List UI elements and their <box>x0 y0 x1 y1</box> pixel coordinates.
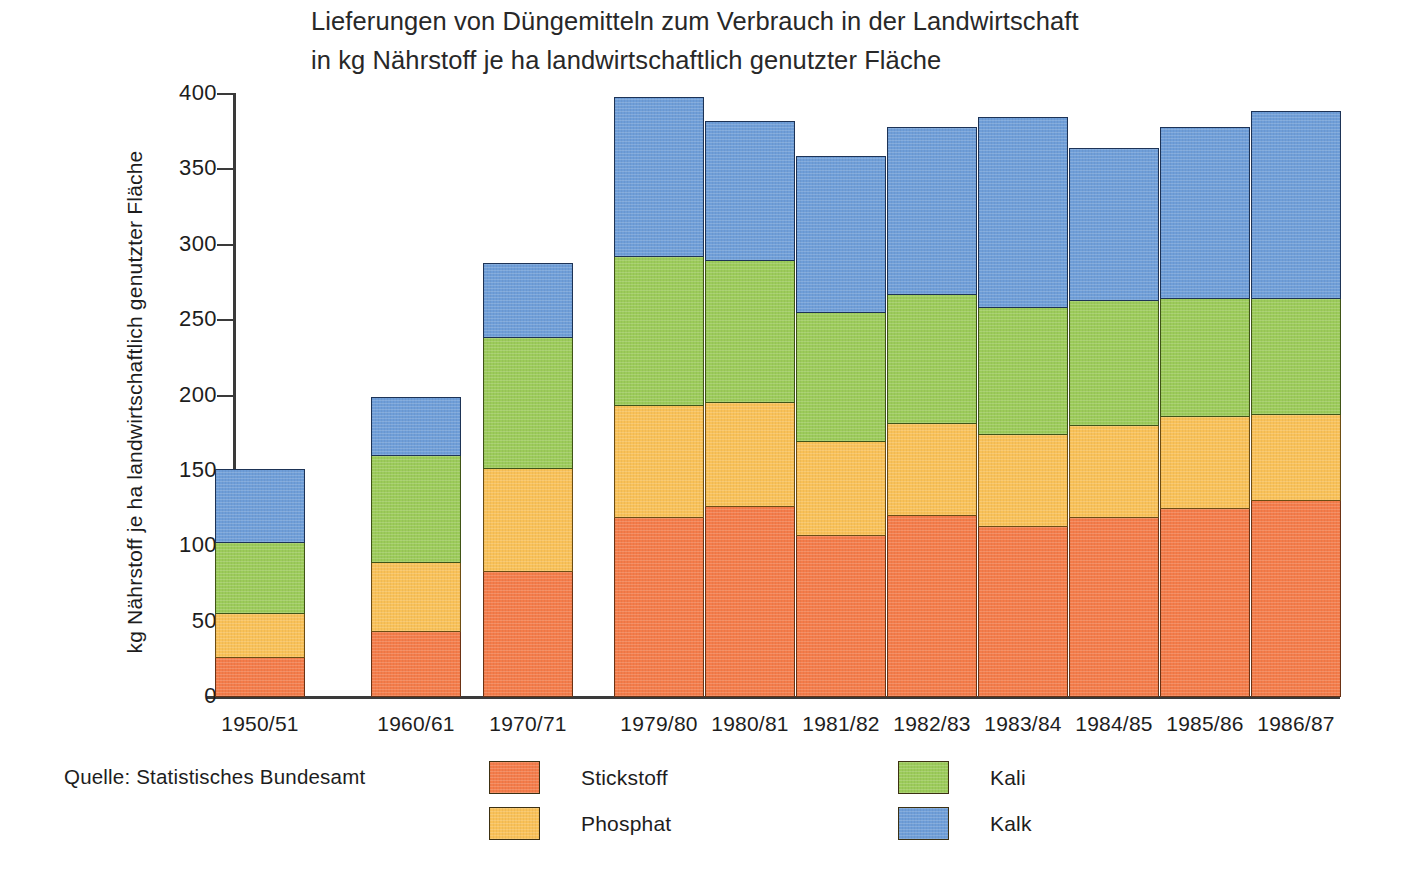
x-tick-label: 1986/87 <box>1239 712 1353 736</box>
bar-segment-stickstoff[interactable] <box>705 505 795 697</box>
legend-swatch-phosphat <box>489 807 540 840</box>
stacked-bar[interactable] <box>978 118 1068 697</box>
x-tick-label: 1950/51 <box>203 712 317 736</box>
x-tick-label: 1960/61 <box>359 712 473 736</box>
y-tick-label: 300 <box>150 233 217 255</box>
bar-segment-kalk[interactable] <box>796 156 886 313</box>
stacked-bar[interactable] <box>371 399 461 697</box>
y-tick-label: 250 <box>150 308 217 330</box>
legend-item-phosphat[interactable]: Phosphat <box>489 807 671 840</box>
bar-segment-kali[interactable] <box>1069 299 1159 426</box>
bar-segment-kalk[interactable] <box>1160 127 1250 299</box>
bar-segment-kalk[interactable] <box>887 127 977 294</box>
bar-segment-stickstoff[interactable] <box>1069 516 1159 697</box>
legend-label-kali: Kali <box>990 766 1026 790</box>
bar-segment-phosphat[interactable] <box>978 433 1068 527</box>
bar-segment-phosphat[interactable] <box>1251 414 1341 502</box>
bar-segment-kali[interactable] <box>215 542 305 614</box>
stacked-bar[interactable] <box>796 157 886 697</box>
bar-segment-kalk[interactable] <box>215 469 305 543</box>
chart-page: Lieferungen von Düngemitteln zum Verbrau… <box>0 0 1406 873</box>
legend-item-kali[interactable]: Kali <box>898 761 1026 794</box>
y-tick-mark <box>217 93 233 95</box>
bar-segment-kalk[interactable] <box>705 121 795 261</box>
y-tick-label: 0 <box>150 685 217 707</box>
stacked-bar[interactable] <box>705 123 795 697</box>
legend-swatch-kalk <box>898 807 949 840</box>
source-note: Quelle: Statistisches Bundesamt <box>64 765 365 789</box>
bar-segment-stickstoff[interactable] <box>887 515 977 698</box>
y-tick-label-text: 400 <box>159 82 217 104</box>
stacked-bar[interactable] <box>1251 112 1341 697</box>
stacked-bar[interactable] <box>215 471 305 697</box>
bar-segment-kali[interactable] <box>371 454 461 563</box>
bar-segment-kali[interactable] <box>483 337 573 470</box>
y-tick-label-text: 150 <box>159 459 217 481</box>
bar-segment-kali[interactable] <box>1160 297 1250 416</box>
bar-segment-phosphat[interactable] <box>371 561 461 632</box>
bar-segment-kalk[interactable] <box>483 263 573 338</box>
bar-segment-kalk[interactable] <box>614 97 704 257</box>
bar-segment-phosphat[interactable] <box>1160 415 1250 509</box>
bar-segment-kalk[interactable] <box>1251 111 1341 300</box>
legend-swatch-stickstoff <box>489 761 540 794</box>
y-tick-label-text: 200 <box>159 384 217 406</box>
bar-segment-kali[interactable] <box>796 311 886 442</box>
bar-segment-stickstoff[interactable] <box>1251 499 1341 697</box>
y-tick-mark <box>217 395 233 397</box>
y-tick-label-text: 100 <box>159 534 217 556</box>
y-tick-label: 50 <box>150 610 217 632</box>
y-tick-label-text: 0 <box>159 685 217 707</box>
y-tick-label: 400 <box>150 82 217 104</box>
bar-segment-stickstoff[interactable] <box>371 631 461 697</box>
bar-segment-phosphat[interactable] <box>887 423 977 517</box>
y-tick-label-text: 50 <box>159 610 217 632</box>
bar-segment-stickstoff[interactable] <box>978 525 1068 697</box>
stacked-bar[interactable] <box>1069 150 1159 697</box>
bar-segment-kalk[interactable] <box>978 117 1068 309</box>
bar-segment-stickstoff[interactable] <box>1160 507 1250 697</box>
y-tick-label: 150 <box>150 459 217 481</box>
legend-item-kalk[interactable]: Kalk <box>898 807 1032 840</box>
bar-segment-stickstoff[interactable] <box>215 656 305 697</box>
legend-swatch-kali <box>898 761 949 794</box>
stacked-bar[interactable] <box>483 264 573 697</box>
plot-area: 050100150200250300350400 kg Nährstoff je… <box>0 0 1406 873</box>
bar-segment-stickstoff[interactable] <box>614 516 704 697</box>
bar-segment-kali[interactable] <box>705 260 795 403</box>
bar-segment-kali[interactable] <box>1251 297 1341 415</box>
y-tick-label-text: 300 <box>159 233 217 255</box>
bar-segment-phosphat[interactable] <box>215 613 305 658</box>
legend-label-phosphat: Phosphat <box>581 812 671 836</box>
y-tick-mark <box>217 319 233 321</box>
bar-segment-phosphat[interactable] <box>483 468 573 572</box>
bar-segment-phosphat[interactable] <box>796 441 886 536</box>
y-tick-label-text: 350 <box>159 157 217 179</box>
bar-segment-stickstoff[interactable] <box>796 534 886 697</box>
bar-segment-kalk[interactable] <box>371 397 461 456</box>
legend-item-stickstoff[interactable]: Stickstoff <box>489 761 668 794</box>
y-tick-mark <box>217 168 233 170</box>
bar-segment-stickstoff[interactable] <box>483 570 573 697</box>
y-tick-label-text: 250 <box>159 308 217 330</box>
bar-segment-phosphat[interactable] <box>1069 424 1159 518</box>
bar-segment-phosphat[interactable] <box>614 404 704 517</box>
x-tick-label: 1970/71 <box>471 712 585 736</box>
y-axis-title: kg Nährstoff je ha landwirtschaftlich ge… <box>123 122 147 682</box>
legend-label-stickstoff: Stickstoff <box>581 766 668 790</box>
y-tick-mark <box>217 244 233 246</box>
y-tick-label: 350 <box>150 157 217 179</box>
stacked-bar[interactable] <box>887 129 977 697</box>
bar-segment-kali[interactable] <box>978 306 1068 434</box>
stacked-bar[interactable] <box>614 99 704 697</box>
stacked-bar[interactable] <box>1160 129 1250 697</box>
y-tick-label: 100 <box>150 534 217 556</box>
bar-segment-kali[interactable] <box>887 293 977 424</box>
y-tick-label: 200 <box>150 384 217 406</box>
legend-label-kalk: Kalk <box>990 812 1032 836</box>
bar-segment-phosphat[interactable] <box>705 401 795 507</box>
bar-segment-kalk[interactable] <box>1069 148 1159 300</box>
bar-segment-kali[interactable] <box>614 255 704 406</box>
